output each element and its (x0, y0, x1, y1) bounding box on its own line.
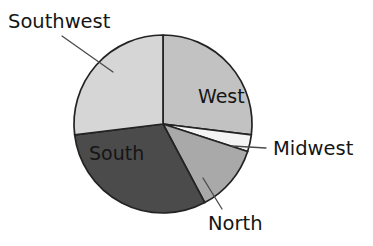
slice-label-south: South (89, 142, 144, 164)
pie-slices-group (74, 35, 252, 213)
pie-slice-southwest[interactable] (74, 35, 163, 135)
slice-label-west: West (198, 85, 245, 107)
pie-chart-canvas: WestMidwestNorthSouthSouthwest (0, 0, 373, 246)
slice-label-southwest: Southwest (8, 10, 111, 33)
pie-chart-figure: WestMidwestNorthSouthSouthwest (0, 0, 373, 246)
slice-label-midwest: Midwest (273, 137, 354, 160)
leader-line-southwest (62, 36, 113, 72)
slice-label-north: North (208, 212, 263, 235)
